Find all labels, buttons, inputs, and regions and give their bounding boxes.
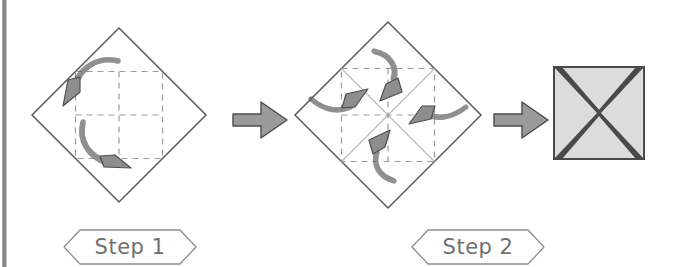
step-2-label: Step 2: [443, 237, 514, 258]
step-1-panel: Step 1: [0, 0, 240, 267]
transition-arrow-2: [492, 100, 550, 140]
origami-instruction-diagram: Step 1: [0, 0, 679, 267]
step-2-banner: Step 2: [410, 228, 546, 266]
paper-outline-diamond: [32, 28, 206, 202]
result-square: [553, 66, 645, 160]
step-1-figure: [0, 0, 240, 267]
step-1-banner: Step 1: [62, 228, 198, 266]
step-1-label: Step 1: [95, 237, 166, 258]
